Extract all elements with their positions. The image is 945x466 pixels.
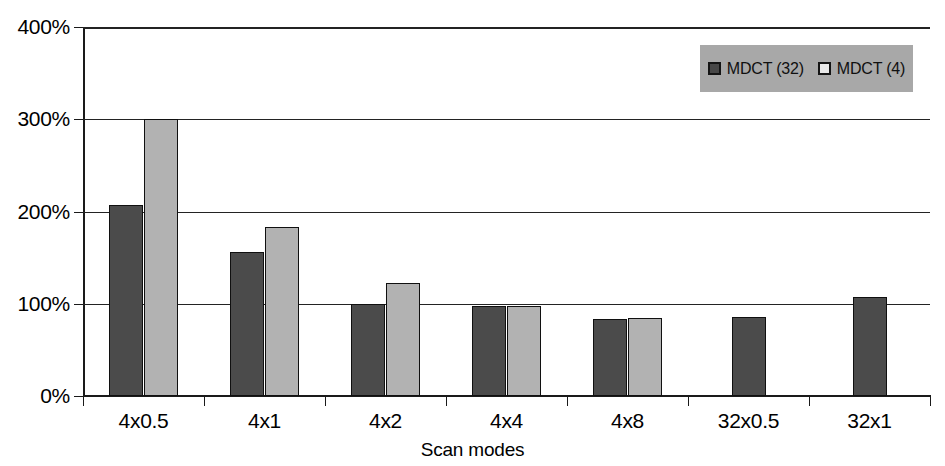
y-tick-label: 300% (0, 108, 70, 129)
bar (351, 304, 385, 396)
x-axis-title: Scan modes (0, 439, 945, 461)
y-tick-mark (74, 27, 83, 28)
bar (628, 318, 662, 396)
x-tick-mark (688, 397, 689, 406)
x-tick-mark (446, 397, 447, 406)
y-tick-label: 400% (0, 16, 70, 37)
y-tick-label: 100% (0, 293, 70, 314)
legend-swatch-icon-light (818, 62, 831, 75)
bar-chart: 400%300%200%100%0% 4x0.54x14x24x44x832x0… (0, 0, 945, 466)
x-category-label: 4x4 (446, 409, 567, 432)
y-tick-mark (74, 119, 83, 120)
x-tick-mark (930, 397, 931, 406)
legend-entry-mdct-32: MDCT (32) (708, 60, 804, 78)
x-tick-mark (809, 397, 810, 406)
y-tick-label: 0% (0, 385, 70, 406)
legend: MDCT (32) MDCT (4) (700, 45, 913, 92)
bar (265, 227, 299, 396)
bar (507, 306, 541, 396)
x-category-label: 4x8 (567, 409, 688, 432)
x-category-label: 32x1 (809, 409, 930, 432)
legend-label-mdct-32: MDCT (32) (727, 60, 804, 78)
x-tick-mark (567, 397, 568, 406)
x-category-label: 4x2 (325, 409, 446, 432)
x-category-label: 4x0.5 (83, 409, 204, 432)
bar (732, 317, 766, 396)
bar (853, 297, 887, 396)
bar (386, 283, 420, 396)
x-tick-mark (325, 397, 326, 406)
bar (144, 119, 178, 396)
x-category-label: 4x1 (204, 409, 325, 432)
x-tick-mark (83, 397, 84, 406)
legend-swatch-icon-dark (708, 62, 721, 75)
y-tick-mark (74, 212, 83, 213)
legend-label-mdct-4: MDCT (4) (837, 60, 905, 78)
x-tick-mark (204, 397, 205, 406)
legend-entry-mdct-4: MDCT (4) (818, 60, 905, 78)
bar (593, 319, 627, 396)
bar (109, 205, 143, 396)
y-tick-label: 200% (0, 201, 70, 222)
bar (230, 252, 264, 396)
y-tick-mark (74, 396, 83, 397)
y-tick-mark (74, 304, 83, 305)
bar (472, 306, 506, 396)
x-category-label: 32x0.5 (688, 409, 809, 432)
